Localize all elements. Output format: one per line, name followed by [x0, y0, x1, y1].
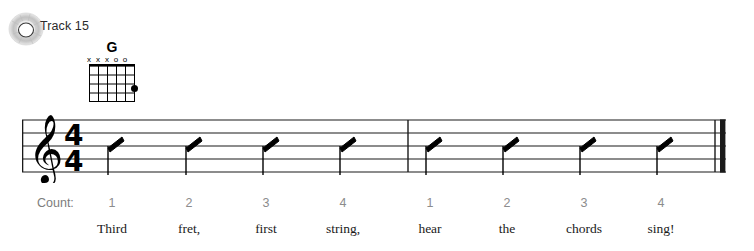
track-label: Track 15	[40, 19, 89, 33]
svg-text:4: 4	[64, 145, 83, 178]
chord-open-string-icon: o	[121, 55, 130, 64]
svg-text:𝄞: 𝄞	[28, 113, 63, 183]
chord-muted-string-icon: x	[103, 55, 112, 64]
lyric-word: sing!	[616, 221, 706, 237]
count-number: 3	[572, 196, 596, 210]
guitar-chord-diagram: G xxxoo	[86, 40, 148, 102]
count-label: Count:	[37, 196, 74, 210]
chord-fretboard-grid	[89, 64, 135, 102]
cd-disc-icon	[8, 12, 44, 46]
chord-muted-string-icon: x	[94, 55, 103, 64]
lyric-word: string,	[298, 221, 388, 237]
count-number: 4	[649, 196, 673, 210]
chord-open-string-icon: o	[112, 55, 121, 64]
chord-string-markers: xxxoo	[86, 55, 138, 64]
lyrics-row: Thirdfret,firststring,hearthechordssing!	[0, 221, 754, 243]
chord-muted-string-icon: x	[85, 55, 94, 64]
count-number: 1	[100, 196, 124, 210]
count-number: 2	[177, 196, 201, 210]
count-row: Count: 12341234	[0, 196, 754, 216]
count-number: 2	[495, 196, 519, 210]
chord-finger-dot	[131, 85, 138, 92]
staff-svg: 𝄞 4 4	[22, 113, 732, 183]
music-staff-system: 𝄞 4 4	[22, 113, 732, 183]
count-number: 4	[331, 196, 355, 210]
chord-name-label: G	[86, 40, 138, 55]
count-number: 1	[418, 196, 442, 210]
count-number: 3	[254, 196, 278, 210]
